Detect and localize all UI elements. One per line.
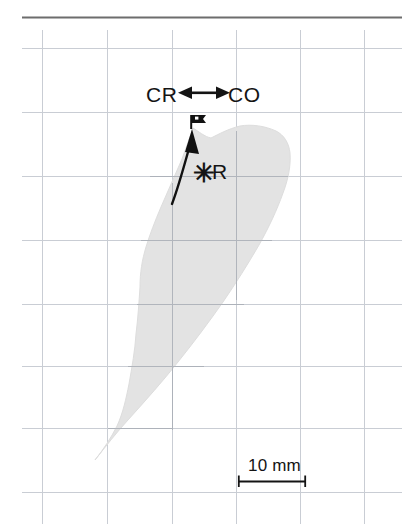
scale-bar-label: 10 mm xyxy=(248,457,301,474)
diagram-canvas xyxy=(0,0,410,530)
flag-banner xyxy=(192,115,206,123)
flag-icon xyxy=(190,115,206,129)
arrow-head-left xyxy=(178,87,192,99)
scale-bar xyxy=(238,476,306,488)
region-label-co: CO xyxy=(228,84,261,105)
reference-point-label-r: R xyxy=(212,161,227,182)
figure-panel: CR CO ✳ R 10 mm xyxy=(0,0,410,530)
double-headed-arrow-icon xyxy=(178,87,230,99)
flag-pole xyxy=(190,115,192,129)
region-label-cr: CR xyxy=(146,84,177,105)
flag-banner-notch xyxy=(195,117,198,120)
